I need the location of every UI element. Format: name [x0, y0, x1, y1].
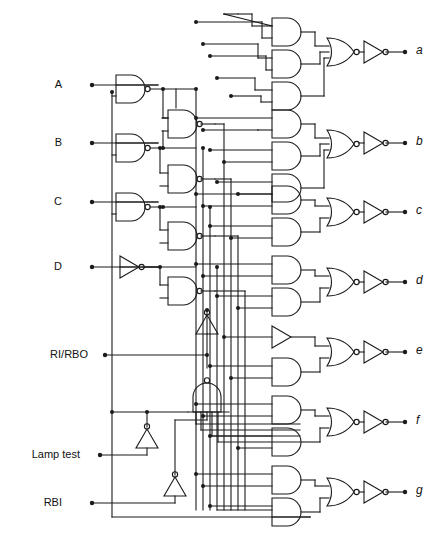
input-label-ri-rbo: RI/RBO [22, 349, 88, 360]
output-label-g: g [416, 485, 423, 496]
input-label-c: C [40, 196, 62, 207]
output-label-b: b [416, 136, 423, 147]
output-label-d: d [416, 275, 423, 286]
input-label-d: D [40, 261, 62, 272]
output-label-e: e [416, 345, 423, 356]
input-label-b: B [40, 137, 62, 148]
output-label-c: c [416, 205, 422, 216]
input-label-rbi: RBI [40, 497, 62, 508]
input-label-lamp-test: Lamp test [8, 449, 80, 460]
input-label-a: A [40, 79, 62, 90]
logic-diagram-page: A B C D RI/RBO Lamp test RBI a b c d e f… [0, 0, 440, 539]
output-label-f: f [416, 415, 419, 426]
output-label-a: a [416, 45, 423, 56]
